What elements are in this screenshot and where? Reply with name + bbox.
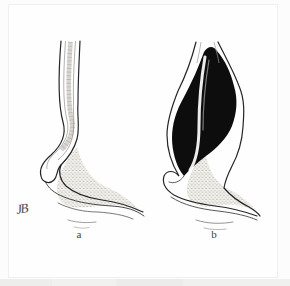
artist-monogram: JB — [15, 201, 27, 215]
panel-label-a: a — [72, 229, 86, 240]
gastric-sweep-b2 — [196, 220, 233, 223]
gastric-sweep-a3 — [68, 220, 96, 223]
illustration-canvas — [0, 0, 290, 286]
panel-a — [41, 41, 144, 228]
cardia-fold-b — [169, 176, 184, 183]
panel-b — [163, 42, 260, 230]
stomach-stipple-a — [57, 147, 142, 213]
panel-label-b: b — [207, 229, 221, 240]
bottom-edge-band — [0, 279, 290, 286]
neck-lumen-line-b1 — [197, 42, 201, 63]
illustration-page: JB a b — [0, 0, 290, 286]
